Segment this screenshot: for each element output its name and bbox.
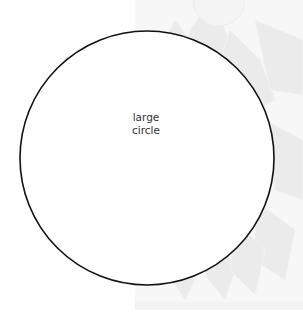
circle-label: large circle <box>106 111 186 137</box>
diagram-canvas: large circle <box>0 0 303 312</box>
circle-label-line1: large <box>106 111 186 124</box>
large-circle-shape <box>0 0 303 312</box>
circle-label-line2: circle <box>106 124 186 137</box>
